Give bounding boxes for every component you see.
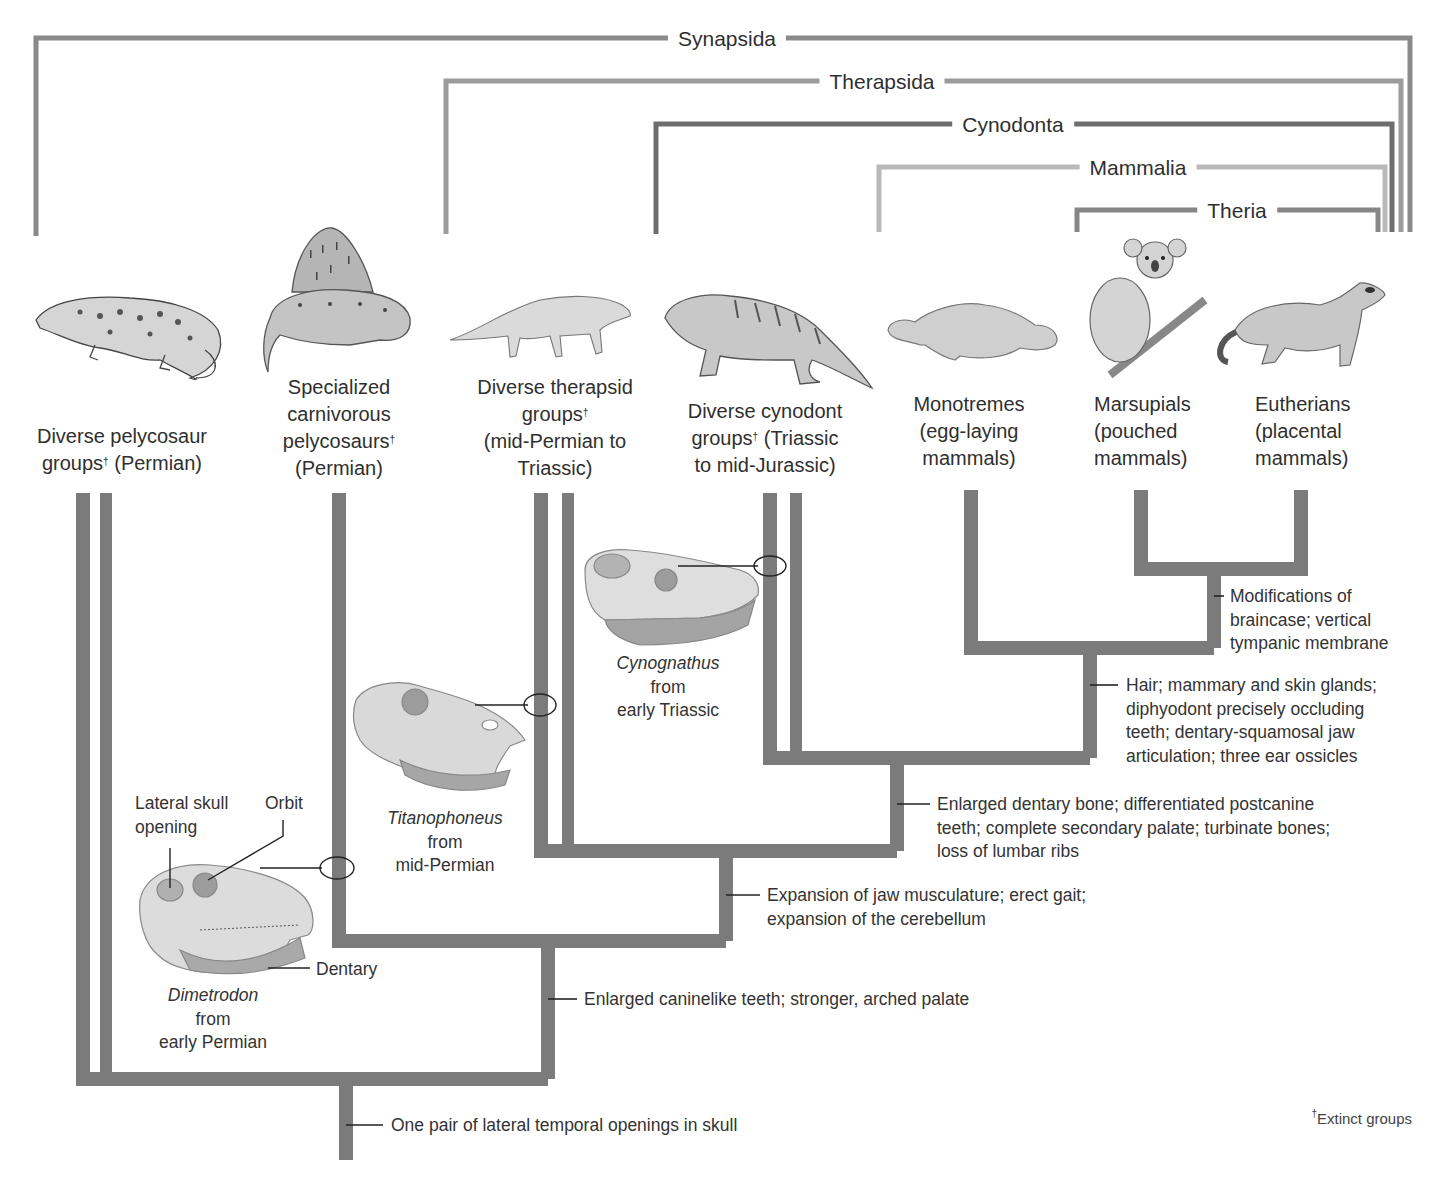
taxon-label-therapsids: Diverse therapsid groups† (mid-Permian t… (477, 374, 633, 482)
annotation-dentary: Dentary (316, 958, 377, 982)
trait-enlarged-dentary: Enlarged dentary bone; differentiated po… (937, 793, 1330, 864)
trait-caninelike-teeth: Enlarged caninelike teeth; stronger, arc… (584, 988, 969, 1012)
caption-dimetrodon: Dimetrodon from early Permian (159, 984, 267, 1055)
caption-titanophoneus: Titanophoneus from mid-Permian (387, 807, 503, 878)
taxon-label-specialized-pelycosaurs: Specialized carnivorous pelycosaurs† (Pe… (283, 374, 395, 482)
trait-braincase: Modifications of braincase; vertical tym… (1230, 585, 1389, 656)
annotation-orbit: Orbit (265, 792, 303, 816)
dimetrodon-skull (140, 865, 313, 974)
taxon-label-monotremes: Monotremes (egg-laying mammals) (913, 391, 1024, 472)
taxon-label-eutherians: Eutherians (placental mammals) (1255, 391, 1351, 472)
trait-hair-mammary: Hair; mammary and skin glands; diphyodon… (1126, 674, 1377, 768)
trait-jaw-musculature: Expansion of jaw musculature; erect gait… (767, 884, 1086, 931)
koala-illustration (1090, 239, 1205, 375)
branch-marsupials-eutherians (1141, 490, 1301, 569)
cynognathus-skull (585, 550, 758, 645)
cynodont-illustration (665, 295, 872, 388)
pelycosaur-illustration (36, 297, 221, 379)
clade-label-theria: Theria (1197, 200, 1277, 221)
clade-label-therapsida: Therapsida (819, 71, 944, 92)
dimetrodon-illustration (264, 228, 410, 372)
therapsid-illustration (450, 296, 630, 357)
taxon-label-pelycosaurs: Diverse pelycosaur groups† (Permian) (37, 423, 207, 477)
clade-label-cynodonta: Cynodonta (952, 114, 1074, 135)
trait-temporal-openings: One pair of lateral temporal openings in… (391, 1114, 737, 1138)
ferret-illustration (1220, 283, 1385, 366)
platypus-illustration (888, 304, 1057, 360)
taxon-label-cynodonts: Diverse cynodont groups† (Triassic to mi… (688, 398, 843, 479)
branch-cynodont-a (770, 493, 1090, 758)
taxon-label-marsupials: Marsupials (pouched mammals) (1094, 391, 1191, 472)
titanophoneus-skull (353, 683, 525, 791)
clade-label-mammalia: Mammalia (1080, 157, 1197, 178)
clade-label-synapsida: Synapsida (668, 28, 786, 49)
cynodonta-bracket (656, 124, 1392, 234)
caption-cynognathus: Cynognathus from early Triassic (616, 652, 719, 723)
footnote-extinct-groups: †Extinct groups (1311, 1110, 1412, 1127)
annotation-lateral-skull-opening: Lateral skull opening (135, 792, 228, 839)
